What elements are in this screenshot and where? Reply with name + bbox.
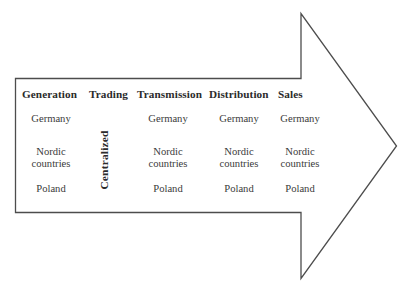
cell-distribution-nordic-countries: Nordic countries bbox=[208, 146, 270, 169]
cell-generation-nordic-countries: Nordic countries bbox=[20, 146, 82, 169]
cell-distribution-germany: Germany bbox=[208, 113, 270, 125]
cell-generation-germany: Germany bbox=[20, 113, 82, 125]
cell-transmission-nordic-countries: Nordic countries bbox=[136, 146, 200, 169]
arrow-content: Generation Trading Transmission Distribu… bbox=[0, 0, 411, 295]
cell-sales-germany: Germany bbox=[269, 113, 331, 125]
cell-sales-poland: Poland bbox=[269, 183, 331, 195]
cell-sales-nordic-countries: Nordic countries bbox=[269, 146, 331, 169]
cell-transmission-germany: Germany bbox=[136, 113, 200, 125]
column-header-distribution: Distribution bbox=[209, 88, 269, 100]
column-header-trading: Trading bbox=[89, 88, 128, 100]
trading-centralized-label: Centralized bbox=[98, 124, 110, 196]
cell-transmission-poland: Poland bbox=[136, 183, 200, 195]
cell-generation-poland: Poland bbox=[20, 183, 82, 195]
column-header-transmission: Transmission bbox=[137, 88, 202, 100]
value-chain-arrow-diagram: Generation Trading Transmission Distribu… bbox=[0, 0, 411, 295]
column-header-generation: Generation bbox=[22, 88, 77, 100]
column-header-sales: Sales bbox=[278, 88, 303, 100]
cell-distribution-poland: Poland bbox=[208, 183, 270, 195]
